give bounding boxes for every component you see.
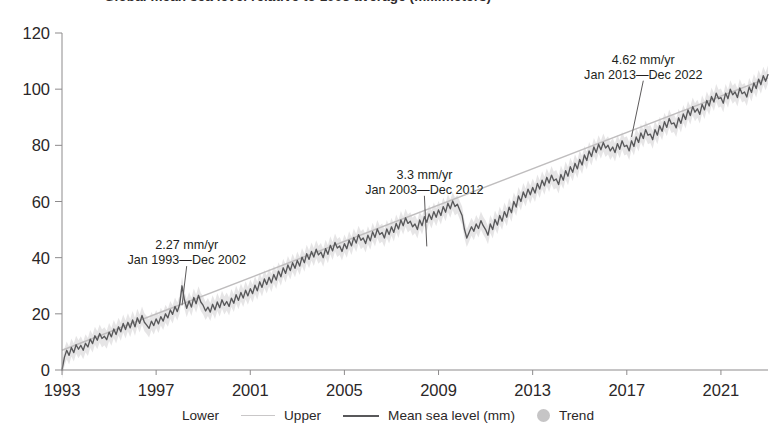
legend-label-upper: Upper xyxy=(284,408,321,423)
legend-item-trend[interactable]: Trend xyxy=(537,408,594,423)
legend-label-lower: Lower xyxy=(182,408,219,423)
x-tick-label: 2009 xyxy=(420,382,457,399)
annotation-period: Jan 2013—Dec 2022 xyxy=(584,68,702,83)
legend-label-mean-sea-level: Mean sea level (mm) xyxy=(388,408,515,423)
y-tick-label: 120 xyxy=(6,25,50,42)
x-tick-label: 2013 xyxy=(514,382,551,399)
legend-line-swatch-icon xyxy=(241,415,275,416)
annotation-1: 2.27 mm/yrJan 1993—Dec 2002 xyxy=(128,238,246,269)
x-tick-label: 2021 xyxy=(703,382,740,399)
x-tick-label: 2017 xyxy=(608,382,645,399)
y-tick-label: 20 xyxy=(6,306,50,323)
chart-legend: Lower Upper Mean sea level (mm) Trend xyxy=(0,408,776,423)
annotation-rate: 2.27 mm/yr xyxy=(128,238,246,253)
uncertainty-band xyxy=(62,66,768,379)
annotation-rate: 3.3 mm/yr xyxy=(365,168,483,183)
x-tick-label: 2001 xyxy=(232,382,269,399)
annotation-3: 4.62 mm/yrJan 2013—Dec 2022 xyxy=(584,53,702,84)
x-tick-label: 1993 xyxy=(44,382,81,399)
x-tick-label: 1997 xyxy=(138,382,175,399)
legend-label-trend: Trend xyxy=(559,408,594,423)
annotation-period: Jan 2003—Dec 2012 xyxy=(365,183,483,198)
annotation-rate: 4.62 mm/yr xyxy=(584,53,702,68)
y-tick-label: 60 xyxy=(6,194,50,211)
legend-item-lower[interactable]: Lower xyxy=(182,408,219,423)
trend-line xyxy=(62,78,768,350)
band-area xyxy=(62,66,768,379)
legend-item-mean-sea-level[interactable]: Mean sea level (mm) xyxy=(343,408,515,423)
annotation-period: Jan 1993—Dec 2002 xyxy=(128,253,246,268)
legend-item-upper[interactable]: Upper xyxy=(241,408,321,423)
y-tick-label: 0 xyxy=(6,362,50,379)
annotation-2: 3.3 mm/yrJan 2003—Dec 2012 xyxy=(365,168,483,199)
x-tick-label: 2005 xyxy=(326,382,363,399)
legend-dot-swatch-icon xyxy=(537,409,550,422)
sea-level-chart: Global mean sea level relative to 1993 a… xyxy=(0,0,776,440)
y-tick-label: 40 xyxy=(6,250,50,267)
y-tick-label: 80 xyxy=(6,137,50,154)
legend-thick-line-swatch-icon xyxy=(343,415,379,417)
y-tick-label: 100 xyxy=(6,81,50,98)
